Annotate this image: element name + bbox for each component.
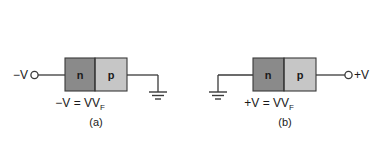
- panel-b-n-label: n: [265, 69, 272, 81]
- panel-b-bias-annotation: +V = V V F: [244, 96, 294, 112]
- panel-b-ground-icon: [209, 92, 227, 99]
- panel-a-ground-icon: [149, 92, 167, 99]
- panel-a-bias-subscript: F: [100, 103, 105, 112]
- panel-a-p-label: p: [108, 69, 115, 81]
- panel-a-bias-main: −V = V: [55, 96, 92, 110]
- panel-b-caption: (b): [278, 116, 291, 128]
- panel-a-caption: (a): [89, 116, 102, 128]
- panel-a-bias-v-symbol: V: [92, 96, 100, 110]
- panel-a-bias-annotation: −V = V V F: [55, 96, 105, 112]
- pn-junction-bias-figure: −V n p −V = V V: [0, 0, 382, 142]
- panel-a-terminal-node-circle: [31, 71, 38, 78]
- panel-b: n p +V +V = V V F (b): [209, 58, 369, 128]
- panel-b-bias-v-symbol: V: [281, 96, 289, 110]
- panel-b-terminal-node-circle: [345, 71, 352, 78]
- panel-b-terminal-label: +V: [354, 68, 369, 82]
- panel-b-bias-main: +V = V: [244, 96, 281, 110]
- diagram-canvas: −V n p −V = V V: [0, 0, 382, 142]
- panel-a: −V n p −V = V V: [13, 58, 167, 128]
- panel-a-terminal-label: −V: [13, 68, 28, 82]
- panel-a-n-label: n: [77, 69, 84, 81]
- panel-b-p-label: p: [297, 69, 304, 81]
- panel-b-bias-subscript: F: [289, 103, 294, 112]
